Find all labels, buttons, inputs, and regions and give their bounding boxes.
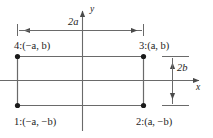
- vertex-label-3: 3:(a, b): [139, 41, 169, 52]
- dimension-width-2a: [18, 24, 144, 36]
- y-axis-label: y: [90, 5, 94, 15]
- dimension-label-height: 2b: [177, 63, 188, 74]
- dimension-label-width: 2a: [68, 17, 79, 28]
- axes-group: [0, 11, 199, 131]
- vertex-point-3: [141, 54, 146, 59]
- vertex-label-1: 1:(−a, −b): [14, 117, 56, 128]
- geometry-figure: 4:(−a, b) 3:(a, b) 1:(−a, −b) 2:(a, −b) …: [0, 0, 213, 138]
- vertex-point-4: [15, 54, 20, 59]
- vertex-label-2: 2:(a, −b): [136, 117, 172, 128]
- vertex-label-4: 4:(−a, b): [14, 41, 50, 52]
- vertex-point-2: [141, 103, 146, 108]
- vertex-point-1: [15, 103, 20, 108]
- x-axis-label: x: [196, 83, 200, 93]
